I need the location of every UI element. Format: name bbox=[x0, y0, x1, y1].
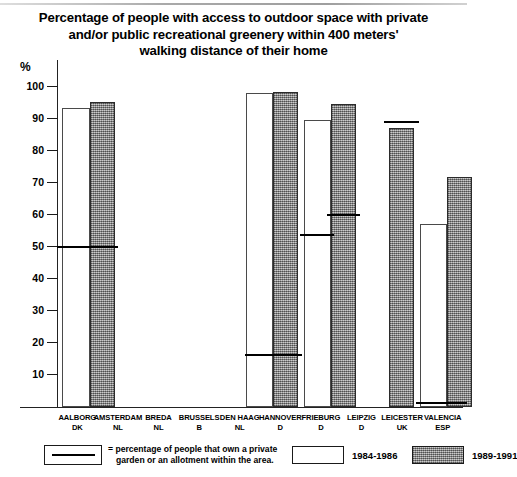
legend-label-1984-1986: 1984-1986 bbox=[352, 450, 397, 461]
y-tick-mark-30 bbox=[47, 310, 58, 311]
y-axis-line bbox=[57, 60, 58, 408]
bar-frieburg-1984-1986 bbox=[304, 120, 331, 407]
y-tick-100: 100 bbox=[14, 81, 44, 91]
y-tick-60: 60 bbox=[14, 209, 44, 219]
y-tick-mark-60 bbox=[47, 214, 58, 215]
legend-swatch-1989-1991 bbox=[412, 446, 464, 464]
y-tick-90: 90 bbox=[14, 113, 44, 123]
marker-aalborg-private-garden bbox=[57, 246, 118, 248]
y-tick-40: 40 bbox=[14, 273, 44, 283]
legend-private-garden-description: = percentage of people that own a privat… bbox=[108, 444, 283, 465]
y-tick-mark-20 bbox=[47, 342, 58, 343]
legend-description-line-1: = percentage of people that own a privat… bbox=[108, 444, 283, 455]
y-tick-mark-70 bbox=[47, 182, 58, 183]
marker-frieburg-1989-1991-private-garden bbox=[327, 214, 360, 216]
y-tick-30: 30 bbox=[14, 305, 44, 315]
bar-frieburg-1989-1991 bbox=[331, 104, 356, 407]
bar-aalborg-1984-1986 bbox=[62, 108, 90, 407]
y-tick-mark-80 bbox=[47, 150, 58, 151]
bar-aalborg-1989-1991 bbox=[90, 102, 115, 407]
marker-leicester-private-garden bbox=[384, 121, 419, 123]
y-tick-80: 80 bbox=[14, 145, 44, 155]
x-axis-line bbox=[20, 407, 463, 408]
legend-description-line-2: garden or an allotment within the area. bbox=[108, 455, 283, 466]
y-tick-mark-40 bbox=[47, 278, 58, 279]
marker-frieburg-1984-1986-private-garden bbox=[300, 234, 334, 236]
y-axis-unit-label: % bbox=[20, 60, 31, 74]
y-tick-70: 70 bbox=[14, 177, 44, 187]
bar-hannover-1989-1991 bbox=[273, 92, 298, 407]
marker-valencia-private-garden bbox=[416, 402, 467, 404]
y-tick-20: 20 bbox=[14, 337, 44, 347]
legend-label-1989-1991: 1989-1991 bbox=[472, 450, 517, 461]
y-tick-mark-100 bbox=[47, 86, 58, 87]
legend-swatch-1984-1986 bbox=[292, 446, 344, 464]
bar-leicester-1989-1991 bbox=[389, 128, 414, 407]
marker-hannover-private-garden bbox=[245, 354, 302, 356]
bar-hannover-1984-1986 bbox=[246, 93, 273, 407]
bar-valencia-1989-1991 bbox=[447, 177, 472, 407]
y-tick-mark-10 bbox=[47, 374, 58, 375]
y-tick-mark-90 bbox=[47, 118, 58, 119]
x-label-valencia: VALENCIA ESP bbox=[418, 413, 467, 432]
y-tick-10: 10 bbox=[14, 369, 44, 379]
y-tick-50: 50 bbox=[14, 241, 44, 251]
legend-marker-line-icon bbox=[52, 454, 95, 456]
legend-swatch-private-garden-marker bbox=[44, 445, 102, 465]
bar-valencia-1984-1986 bbox=[420, 224, 447, 407]
chart-legend: = percentage of people that own a privat… bbox=[20, 443, 460, 473]
